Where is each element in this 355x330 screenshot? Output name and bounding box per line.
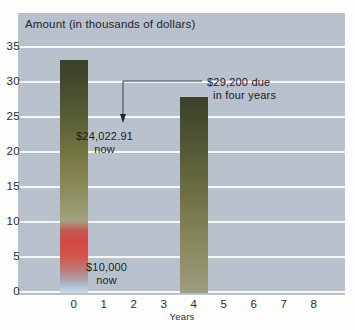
y-axis-title: Amount (in thousands of dollars) (25, 18, 195, 30)
annotation-due-line1: $29,200 due (207, 76, 270, 88)
x-tick-0: 0 (71, 298, 78, 310)
annotation-deposit-line1: $10,000 (86, 261, 127, 273)
x-tick-3: 3 (161, 298, 168, 310)
y-tick-15: 15 (6, 180, 20, 192)
annotation-due-in-four-years: $29,200 due in four years (207, 76, 276, 102)
annotation-present-value: $24,022.91 now (76, 130, 133, 156)
annotation-present-line2: now (76, 143, 133, 156)
y-tick-20: 20 (6, 145, 20, 157)
bar-year-0[interactable] (60, 60, 88, 293)
y-tick-25: 25 (6, 110, 20, 122)
y-tick-10: 10 (6, 215, 20, 227)
bar-chart-figure: Amount (in thousands of dollars) 35 30 2… (0, 0, 355, 330)
y-tick-35: 35 (6, 40, 20, 52)
annotation-present-line1: $24,022.91 (76, 130, 133, 142)
x-tick-2: 2 (131, 298, 138, 310)
x-tick-6: 6 (251, 298, 258, 310)
annotation-deposit: $10,000 now (86, 261, 127, 287)
x-tick-8: 8 (311, 298, 318, 310)
annotation-due-line2: in four years (207, 89, 276, 102)
annotation-deposit-line2: now (86, 274, 127, 287)
x-tick-7: 7 (281, 298, 288, 310)
y-tick-30: 30 (6, 75, 20, 87)
plot-area (18, 13, 345, 295)
y-tick-0: 0 (13, 285, 20, 297)
gridline-35 (18, 46, 345, 48)
x-tick-4: 4 (191, 298, 198, 310)
x-tick-5: 5 (221, 298, 228, 310)
x-tick-1: 1 (101, 298, 108, 310)
x-axis-title: Years (170, 311, 195, 322)
bar-year-4[interactable] (180, 97, 208, 293)
y-tick-5: 5 (13, 250, 20, 262)
